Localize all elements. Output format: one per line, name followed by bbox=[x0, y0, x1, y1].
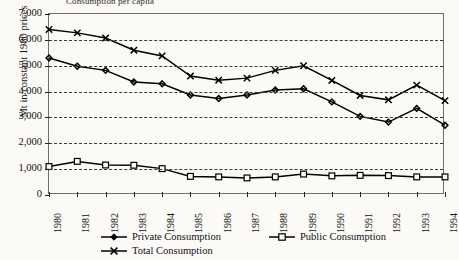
cross-x-marker bbox=[442, 97, 448, 103]
filled-diamond-marker bbox=[100, 232, 128, 242]
cross-x-marker bbox=[100, 246, 128, 256]
legend-label: Total Consumption bbox=[132, 245, 213, 256]
y-tick-label: 1,000 bbox=[8, 163, 42, 173]
y-gridline bbox=[49, 66, 443, 67]
open-square-marker bbox=[268, 232, 296, 242]
open-square-marker bbox=[74, 158, 80, 164]
y-tick-mark bbox=[45, 169, 50, 170]
open-square-marker bbox=[216, 174, 222, 180]
open-square-marker bbox=[357, 172, 363, 178]
x-tick-label: 1989 bbox=[307, 213, 318, 233]
x-tick-mark bbox=[445, 192, 446, 197]
open-square-marker bbox=[244, 175, 250, 181]
x-tick-label: 1985 bbox=[193, 213, 204, 233]
legend-label: Private Consumption bbox=[132, 231, 221, 242]
y-tick-mark bbox=[45, 40, 50, 41]
open-square-marker bbox=[414, 174, 420, 180]
x-tick-label: 1994 bbox=[448, 213, 459, 233]
x-tick-label: 1993 bbox=[420, 213, 431, 233]
y-tick-mark bbox=[45, 66, 50, 67]
plot-area bbox=[48, 13, 444, 194]
x-tick-label: 1991 bbox=[363, 213, 374, 233]
x-tick-label: 1981 bbox=[80, 213, 91, 233]
y-tick-mark bbox=[45, 117, 50, 118]
filled-diamond-marker bbox=[46, 55, 52, 61]
y-tick-mark bbox=[45, 14, 50, 15]
open-square-marker bbox=[301, 171, 307, 177]
open-square-marker bbox=[272, 174, 278, 180]
open-square-marker bbox=[188, 173, 194, 179]
y-tick-mark bbox=[45, 92, 50, 93]
legend-label: Public Consumption bbox=[300, 231, 386, 242]
x-tick-label: 1980 bbox=[52, 213, 63, 233]
x-tick-label: 1988 bbox=[278, 213, 289, 233]
legend-item-private-consumption[interactable]: Private Consumption bbox=[100, 231, 221, 242]
y-gridline bbox=[49, 143, 443, 144]
y-gridline bbox=[49, 117, 443, 118]
y-tick-mark bbox=[45, 143, 50, 144]
y-axis-label: Mt in constant 1980 prices bbox=[18, 0, 29, 147]
legend-item-total-consumption[interactable]: Total Consumption bbox=[100, 245, 213, 256]
filled-diamond-marker bbox=[111, 233, 117, 239]
x-tick-label: 1992 bbox=[391, 213, 402, 233]
open-square-marker bbox=[386, 173, 392, 179]
x-tick-label: 1987 bbox=[250, 213, 261, 233]
open-square-marker bbox=[442, 174, 448, 180]
y-gridline bbox=[49, 169, 443, 170]
cross-x-marker bbox=[414, 82, 420, 88]
legend-item-public-consumption[interactable]: Public Consumption bbox=[268, 231, 386, 242]
y-gridline bbox=[49, 40, 443, 41]
x-tick-label: 1986 bbox=[222, 213, 233, 233]
x-tick-label: 1982 bbox=[109, 213, 120, 233]
y-gridline bbox=[49, 92, 443, 93]
open-square-marker bbox=[279, 233, 285, 239]
open-square-marker bbox=[103, 162, 109, 168]
chart-legend: Private ConsumptionPublic ConsumptionTot… bbox=[100, 231, 430, 259]
open-square-marker bbox=[329, 173, 335, 179]
series-lines bbox=[49, 14, 445, 195]
x-tick-label: 1983 bbox=[137, 213, 148, 233]
figure-title: Consumption per capita bbox=[66, 0, 286, 8]
x-tick-label: 1984 bbox=[165, 213, 176, 233]
x-tick-label: 1990 bbox=[335, 213, 346, 233]
cross-x-marker bbox=[329, 77, 335, 83]
y-tick-label: 0 bbox=[8, 189, 42, 199]
open-square-marker bbox=[131, 162, 137, 168]
